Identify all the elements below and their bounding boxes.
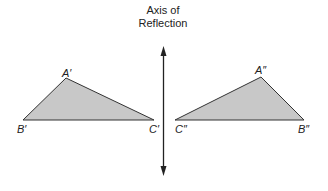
vertex-label-b-prime: B′ (17, 123, 27, 135)
axis-arrowhead-bottom (161, 166, 167, 176)
vertex-label-c-prime: C′ (149, 123, 160, 135)
vertex-label-b-double-prime: B″ (298, 123, 310, 135)
triangle-first-image (23, 78, 154, 120)
reflection-diagram: A′ B′ C′ A″ B″ C″ (0, 0, 328, 191)
vertex-label-a-prime: A′ (61, 67, 72, 79)
triangle-second-image (175, 77, 304, 120)
vertex-label-a-double-prime: A″ (254, 64, 267, 76)
axis-arrowhead-top (161, 46, 167, 56)
vertex-label-c-double-prime: C″ (175, 123, 188, 135)
